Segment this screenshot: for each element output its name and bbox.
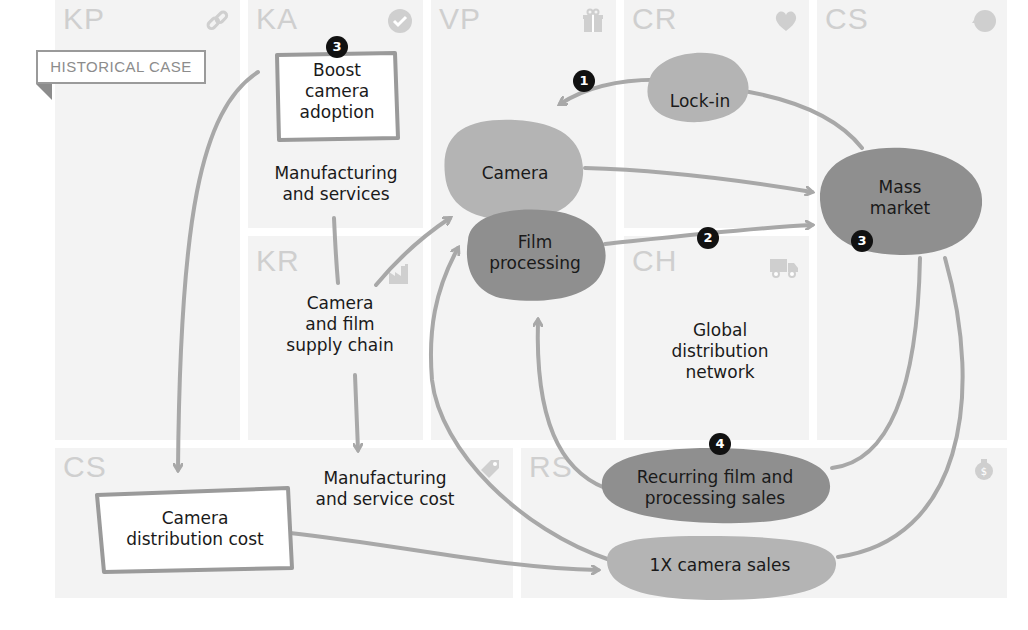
camera-text: Camera	[455, 163, 575, 184]
historical-case-tag: HISTORICAL CASE	[36, 50, 206, 84]
badge-lockin-arrow: 1	[573, 70, 595, 92]
manufacturing-services-text: Manufacturing and services	[252, 163, 420, 205]
badge-film-arrow: 2	[697, 227, 719, 249]
badge-recurring: 4	[709, 433, 731, 455]
camera-sales-text: 1X camera sales	[620, 555, 820, 576]
badge-mass-market: 3	[851, 230, 873, 252]
badge-boost: 3	[326, 36, 348, 58]
global-distribution-text: Global distribution network	[650, 320, 790, 383]
boost-camera-adoption-text: Boost camera adoption	[278, 60, 396, 123]
tag-fold-shape	[36, 84, 52, 100]
film-processing-text: Film processing	[475, 232, 595, 274]
mass-market-text: Mass market	[840, 177, 960, 219]
recurring-sales-text: Recurring film and processing sales	[610, 467, 820, 509]
supply-chain-text: Camera and film supply chain	[270, 293, 410, 356]
manufacturing-service-cost-text: Manufacturing and service cost	[300, 468, 470, 510]
business-model-canvas: KP KA KR VP CR CH CS CS RS $	[0, 0, 1028, 630]
lockin-text: Lock-in	[650, 91, 750, 112]
camera-distribution-cost-text: Camera distribution cost	[105, 508, 285, 550]
